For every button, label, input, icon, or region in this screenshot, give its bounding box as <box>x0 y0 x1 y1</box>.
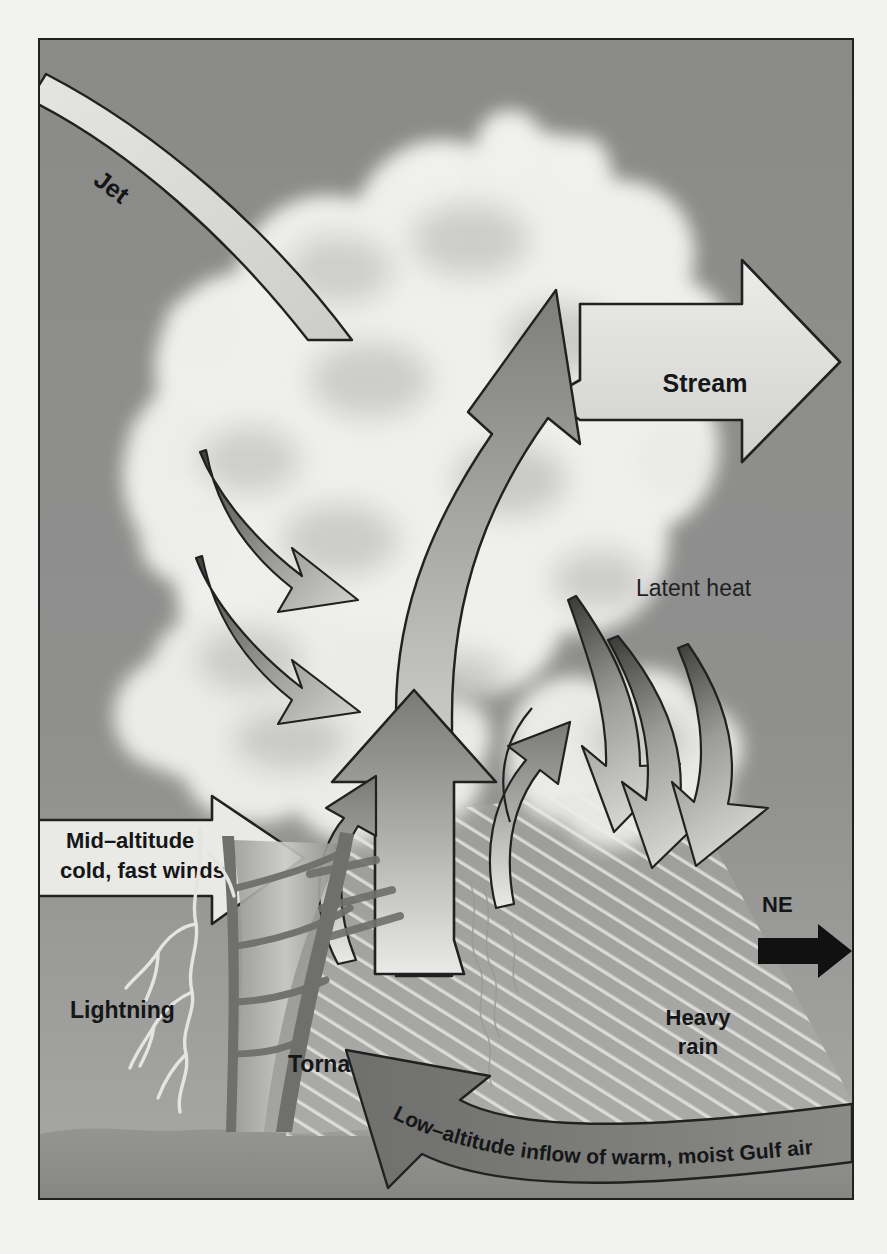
storm-diagram-figure: Jet Stream Thermal Updraft Latent heat <box>38 38 854 1200</box>
grain-overlay <box>40 40 852 1198</box>
